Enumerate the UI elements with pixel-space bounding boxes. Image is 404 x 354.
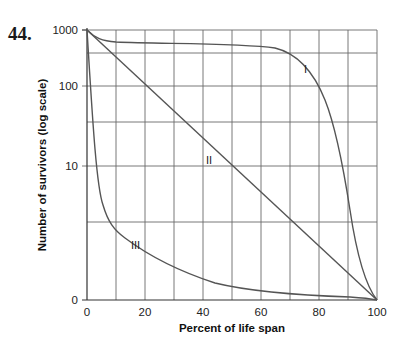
curve-label-II: II [206, 154, 212, 166]
x-tick-40: 40 [197, 306, 210, 318]
x-tick-80: 80 [313, 306, 326, 318]
x-tick-20: 20 [139, 306, 152, 318]
x-axis-label: Percent of life span [179, 322, 285, 334]
y-tick-0: 0 [72, 294, 78, 306]
x-tick-0: 0 [84, 306, 90, 318]
y-axis-label: Number of survivors (log scale) [36, 79, 48, 252]
survivorship-chart: 44. 1000 100 10 0 0 20 40 60 80 100 Perc… [0, 0, 404, 354]
curve-label-I: I [304, 63, 307, 75]
x-tick-60: 60 [255, 306, 268, 318]
y-tick-100: 100 [59, 80, 78, 92]
curve-label-III: III [131, 239, 140, 251]
y-tick-1000: 1000 [52, 24, 78, 36]
question-number: 44. [8, 23, 32, 44]
y-tick-10: 10 [65, 160, 78, 172]
x-tick-100: 100 [367, 306, 386, 318]
